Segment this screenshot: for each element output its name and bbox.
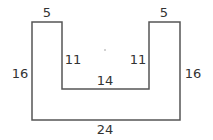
label-inner-bottom-width: 14	[97, 73, 114, 88]
center-dot	[104, 49, 106, 51]
label-left-height: 16	[12, 66, 29, 81]
label-inner-left-height: 11	[65, 52, 82, 67]
label-inner-right-height: 11	[130, 52, 147, 67]
label-right-height: 16	[185, 66, 202, 81]
u-shape-diagram: 5 5 16 16 11 11 14 24	[0, 0, 213, 140]
u-shape-outline	[32, 22, 180, 120]
label-top-left-width: 5	[43, 5, 51, 20]
label-top-right-width: 5	[160, 5, 168, 20]
label-bottom-width: 24	[97, 122, 114, 137]
